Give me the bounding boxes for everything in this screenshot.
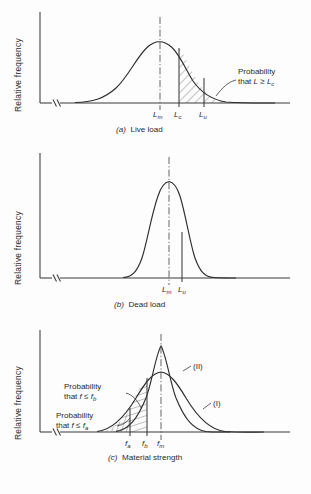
panel-a-annotation-line1: Probability: [238, 67, 275, 76]
figure-container: Relative frequency Lm Lc Lu Probability …: [0, 0, 311, 494]
panel-c-caption: (c) Material strength: [108, 453, 182, 462]
panel-a-caption: (a) Live load: [116, 125, 163, 134]
panel-c-curve-label-II: (II): [193, 362, 203, 371]
panel-c-annotation-fb-line1: Probability: [64, 382, 101, 391]
panel-a-annotation-line2: that L ≥ Lc: [238, 77, 274, 87]
panel-b-y-axis-label: Relative frequency: [13, 211, 23, 285]
panel-c-y-axis-label: Relative frequency: [13, 366, 23, 440]
panel-c-annotation-fb-line2: that f ≤ fb: [64, 392, 97, 402]
panel-b-caption: (b) Dead load: [114, 300, 165, 309]
panel-c-annotation-fa-line2: that f ≤ fa: [56, 421, 89, 431]
panel-a-y-axis-label: Relative frequency: [13, 38, 23, 112]
panel-c-annotation-fa-line1: Probability: [56, 411, 93, 420]
panel-c-curve-label-I: (I): [213, 399, 221, 408]
